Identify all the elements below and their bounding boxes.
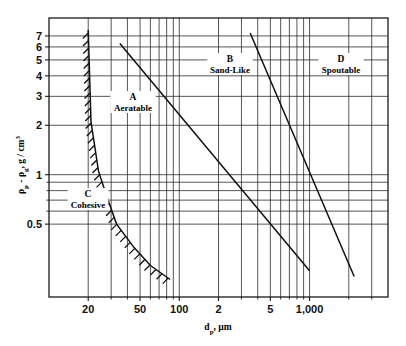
region-name: Spoutable (322, 65, 361, 75)
region-label-b: BSand-Like (207, 53, 252, 75)
geldart-classification-chart: 2050100251,000 0.51234567 AAeratableBSan… (0, 0, 406, 346)
y-tick-label: 5 (36, 54, 42, 66)
region-letter: C (85, 189, 92, 199)
x-tick-label: 50 (134, 303, 146, 315)
y-tick-label: 6 (36, 41, 42, 53)
region-letter: B (227, 54, 234, 64)
x-tick-label: 5 (267, 303, 273, 315)
chart-canvas: 2050100251,000 0.51234567 AAeratableBSan… (0, 0, 406, 346)
y-tick-label: 7 (36, 30, 42, 42)
y-tick-label: 3 (36, 90, 42, 102)
y-tick-label: 4 (36, 70, 43, 82)
region-label-d: DSpoutable (318, 53, 363, 75)
region-label-c: CCohesive (68, 188, 109, 210)
x-tick-label: 2 (215, 303, 221, 315)
y-tick-label: 2 (36, 119, 42, 131)
region-name: Sand-Like (210, 65, 250, 75)
region-name: Cohesive (71, 200, 106, 210)
region-letter: A (130, 92, 137, 102)
y-tick-label: 0.5 (27, 218, 42, 230)
region-label-a: AAeratable (110, 91, 155, 113)
chart-background (0, 0, 406, 346)
x-tick-label: 1,000 (296, 303, 324, 315)
region-letter: D (338, 54, 345, 64)
x-tick-label: 20 (82, 303, 94, 315)
region-name: Aeratable (114, 103, 152, 113)
x-tick-label: 100 (170, 303, 188, 315)
y-tick-label: 1 (36, 169, 42, 181)
